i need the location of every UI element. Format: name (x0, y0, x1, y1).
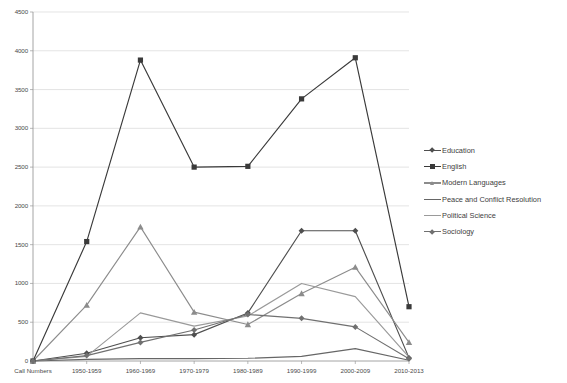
chart-container: 050010001500200025003000350040004500 Cal… (0, 0, 567, 383)
x-axis-tick-label: 1990-1999 (272, 367, 332, 374)
legend-item-label: Education (441, 146, 475, 155)
y-axis-tick-label: 4500 (0, 8, 28, 15)
legend-item-label: Political Science (441, 211, 496, 220)
x-axis-tick-label: 1960-1969 (110, 367, 170, 374)
x-axis-tick-label: 1950-1959 (57, 367, 117, 374)
legend-marker-triangle-icon (424, 178, 441, 188)
legend-item-label: Sociology (441, 227, 474, 236)
x-axis-tick-label: Call Numbers (3, 367, 63, 374)
y-axis-tick-label: 500 (0, 318, 28, 325)
legend-item[interactable]: English (424, 158, 567, 174)
y-axis-tick-label: 3000 (0, 124, 28, 131)
x-axis-tick-label: 2000-2009 (325, 367, 385, 374)
x-axis-tick-label: 1970-1979 (164, 367, 224, 374)
x-axis-tick-label: 1980-1989 (218, 367, 278, 374)
y-axis-tick-label: 4000 (0, 47, 28, 54)
legend-marker-square-icon (424, 161, 441, 171)
y-axis-tick-label: 1000 (0, 279, 28, 286)
y-axis-tick-label: 2500 (0, 163, 28, 170)
y-axis-tick-label: 2000 (0, 202, 28, 209)
x-axis-tick-label: 2010-2013 (379, 367, 439, 374)
legend-item[interactable]: Sociology (424, 223, 567, 239)
legend-item[interactable]: Peace and Conflict Resolution (424, 191, 567, 207)
chart-legend: EducationEnglishModern LanguagesPeace an… (424, 142, 567, 240)
legend-marker-none-icon (424, 194, 441, 204)
legend-item[interactable]: Education (424, 142, 567, 158)
legend-item-label: English (441, 162, 466, 171)
legend-item-label: Modern Languages (441, 178, 506, 187)
y-axis-tick-label: 0 (0, 357, 28, 364)
legend-item[interactable]: Political Science (424, 207, 567, 223)
legend-item[interactable]: Modern Languages (424, 175, 567, 191)
legend-marker-diamond-icon (424, 227, 441, 237)
y-axis-tick-label: 1500 (0, 241, 28, 248)
legend-marker-none-icon (424, 210, 441, 220)
y-axis-tick-label: 3500 (0, 86, 28, 93)
legend-item-label: Peace and Conflict Resolution (441, 195, 541, 204)
legend-marker-diamond-icon (424, 145, 441, 155)
